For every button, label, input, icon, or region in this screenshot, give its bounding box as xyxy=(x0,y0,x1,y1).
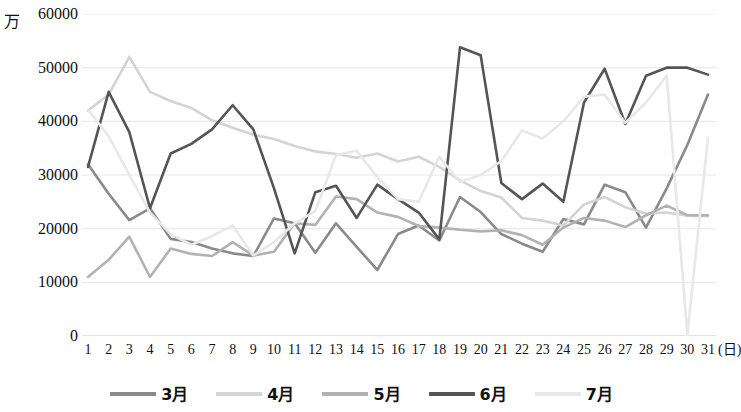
x-axis-tick-label: 28 xyxy=(636,342,656,357)
x-axis-tick-label: 9 xyxy=(243,342,263,357)
legend-item[interactable]: 5月 xyxy=(322,386,400,403)
x-axis-tick-label: 11 xyxy=(285,342,305,357)
legend-item[interactable]: 4月 xyxy=(216,386,294,403)
series-line xyxy=(88,76,708,335)
x-axis-tick-label: 8 xyxy=(223,342,243,357)
x-axis-tick-label: 7 xyxy=(202,342,222,357)
y-axis-tick-label: 20000 xyxy=(4,221,78,237)
series-line xyxy=(88,95,708,270)
y-axis-tick-label: 40000 xyxy=(4,113,78,129)
legend-label: 7月 xyxy=(586,386,613,403)
x-axis-tick-label: 4 xyxy=(140,342,160,357)
x-axis-tick-label: 10 xyxy=(264,342,284,357)
legend-color-swatch xyxy=(216,392,262,396)
x-axis-tick-label: 31 xyxy=(698,342,718,357)
x-axis-tick-label: 18 xyxy=(429,342,449,357)
x-axis-tick-label: 20 xyxy=(471,342,491,357)
x-axis-tick-label: 23 xyxy=(533,342,553,357)
plot-area xyxy=(82,14,716,336)
x-axis-tick-label: 25 xyxy=(574,342,594,357)
legend-label: 4月 xyxy=(267,386,294,403)
x-axis-tick-label: 22 xyxy=(512,342,532,357)
x-axis-tick-label: 26 xyxy=(595,342,615,357)
x-axis-tick-label: 16 xyxy=(388,342,408,357)
chart-legend: 3月4月5月6月7月 xyxy=(0,380,723,408)
x-axis-tick-label: 24 xyxy=(553,342,573,357)
series-line xyxy=(88,196,708,277)
x-axis-tick-label: 29 xyxy=(657,342,677,357)
x-axis-tick-label: 3 xyxy=(119,342,139,357)
series-line xyxy=(88,47,708,253)
x-axis-tick-label: 30 xyxy=(677,342,697,357)
x-axis-tick-label: 5 xyxy=(161,342,181,357)
legend-color-swatch xyxy=(322,392,368,396)
x-axis-tick-label: 6 xyxy=(181,342,201,357)
x-axis-tick-label: 17 xyxy=(409,342,429,357)
x-axis-tick-label: 27 xyxy=(615,342,635,357)
y-axis-tick-label: 60000 xyxy=(4,6,78,22)
legend-color-swatch xyxy=(110,392,156,396)
legend-item[interactable]: 6月 xyxy=(429,386,507,403)
legend-label: 6月 xyxy=(480,386,507,403)
x-axis-tick-label: 1 xyxy=(78,342,98,357)
legend-label: 5月 xyxy=(373,386,400,403)
y-axis-tick-label: 50000 xyxy=(4,60,78,76)
y-axis: 6000050000400003000020000100000 xyxy=(0,0,78,360)
legend-color-swatch xyxy=(535,392,581,396)
x-axis-tick-label: 14 xyxy=(347,342,367,357)
legend-label: 3月 xyxy=(161,386,188,403)
y-axis-tick-label: 10000 xyxy=(4,274,78,290)
x-axis: 1234567891011121314151617181920212223242… xyxy=(0,340,723,366)
x-axis-unit-label: (日) xyxy=(718,342,741,357)
y-axis-tick-label: 30000 xyxy=(4,167,78,183)
x-axis-tick-label: 12 xyxy=(305,342,325,357)
legend-item[interactable]: 3月 xyxy=(110,386,188,403)
x-axis-tick-label: 19 xyxy=(450,342,470,357)
x-axis-tick-label: 15 xyxy=(367,342,387,357)
legend-item[interactable]: 7月 xyxy=(535,386,613,403)
legend-color-swatch xyxy=(429,392,475,396)
x-axis-tick-label: 21 xyxy=(491,342,511,357)
x-axis-tick-label: 13 xyxy=(326,342,346,357)
x-axis-tick-label: 2 xyxy=(99,342,119,357)
